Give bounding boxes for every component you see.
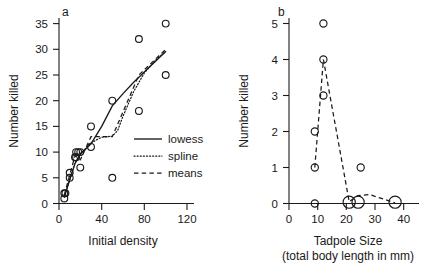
panel-a-ytick-15: 15 <box>35 120 48 132</box>
panel-b-ytick-0: 0 <box>272 198 278 210</box>
panel-b-xtick-30: 30 <box>369 213 382 225</box>
panel-b-xtick-0: 0 <box>286 213 292 225</box>
panel-a-x-ticks <box>59 204 187 211</box>
legend-label-lowess: lowess <box>168 133 203 145</box>
panel-a-ytick-25: 25 <box>35 69 48 81</box>
panel-b-y-ticklabels: 0 1 2 3 4 5 <box>272 18 279 210</box>
panel-b-y-axis-title: Number killed <box>237 74 251 147</box>
panel-b-ytick-4: 4 <box>272 54 279 66</box>
panel-b-data-points <box>311 20 401 208</box>
panel-b-x-axis-title-line2: (total body length in mm) <box>282 249 414 263</box>
panel-a-ytick-20: 20 <box>35 95 48 107</box>
panel-b-ytick-1: 1 <box>272 162 278 174</box>
panel-a-xtick-120: 120 <box>177 213 196 225</box>
clipped-caption <box>0 266 431 274</box>
panel-a-ytick-0: 0 <box>42 198 48 210</box>
panel-b-xtick-20: 20 <box>340 213 353 225</box>
panel-a-data-points <box>61 20 169 202</box>
panel-a-xtick-0: 0 <box>56 213 62 225</box>
panel-a-xtick-80: 80 <box>138 213 151 225</box>
panel-b-ytick-5: 5 <box>272 18 278 30</box>
panel-b-x-ticklabels: 0 10 20 30 40 <box>286 213 410 225</box>
panel-b-xtick-40: 40 <box>397 213 410 225</box>
panel-a-y-ticks <box>53 24 59 204</box>
panel-a-x-axis-title: Initial density <box>88 234 157 248</box>
panel-b-means-curve <box>315 60 395 203</box>
panel-b-ytick-3: 3 <box>272 90 278 102</box>
panel-b-y-ticks <box>283 24 289 204</box>
panel-b-ytick-2: 2 <box>272 126 278 138</box>
figure-root: a 0 5 10 15 20 25 30 35 <box>0 0 431 274</box>
panel-a-ytick-30: 30 <box>35 43 48 55</box>
panel-a-legend: lowess spline means <box>134 133 203 179</box>
panel-b-x-ticks <box>289 204 404 211</box>
legend-label-means: means <box>168 167 203 179</box>
panel-a-x-ticklabels: 0 40 80 120 <box>56 213 197 225</box>
panel-a-ytick-10: 10 <box>35 146 48 158</box>
panel-a-xtick-40: 40 <box>95 213 108 225</box>
panel-b: b 0 1 2 3 4 5 0 <box>215 0 431 274</box>
panel-b-x-axis-title-line1: Tadpole Size <box>314 234 383 248</box>
panel-a-ytick-5: 5 <box>42 172 48 184</box>
panel-b-label: b <box>278 5 285 19</box>
panel-a-label: a <box>62 5 69 19</box>
panel-a-ytick-35: 35 <box>35 18 48 30</box>
panel-a: a 0 5 10 15 20 25 30 35 <box>0 0 215 274</box>
panel-b-xtick-10: 10 <box>311 213 324 225</box>
panel-a-y-ticklabels: 0 5 10 15 20 25 30 35 <box>35 18 48 210</box>
legend-label-spline: spline <box>168 150 198 162</box>
panel-a-y-axis-title: Number killed <box>7 74 21 147</box>
